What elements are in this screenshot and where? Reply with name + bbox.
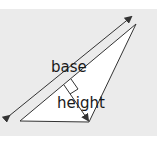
base-label: base	[51, 58, 87, 76]
triangle-diagram: base height	[0, 0, 157, 145]
height-label: height	[57, 94, 105, 112]
diagram-canvas: base height	[0, 0, 157, 145]
